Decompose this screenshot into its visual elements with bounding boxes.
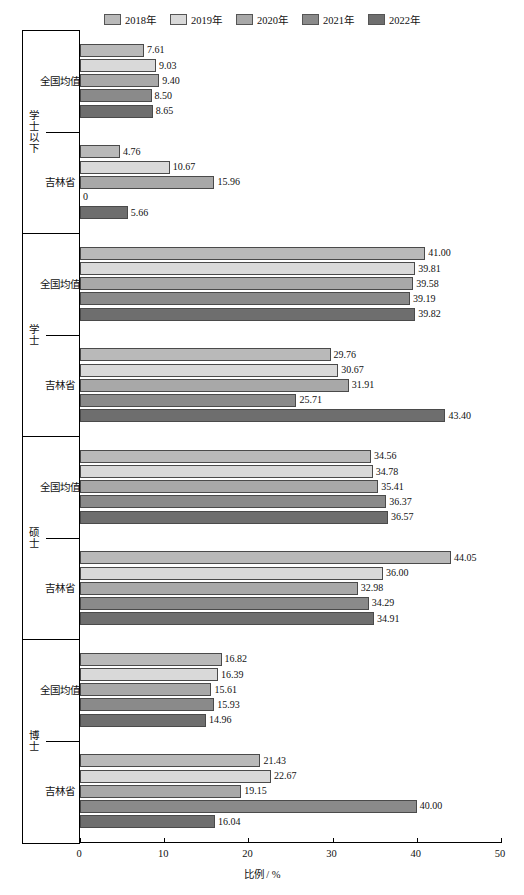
group-label: 博士 [24,713,40,769]
bar [80,495,386,508]
category-label: 全国均值 [40,682,80,697]
bar [80,511,388,524]
category-divider [46,132,79,133]
bar-value-label: 8.50 [155,89,173,102]
bar [80,409,445,422]
bar [80,145,120,158]
legend-swatch [170,14,187,25]
x-tick-label: 30 [317,848,347,859]
chart-legend: 2018年2019年2020年2021年2022年 [0,12,524,27]
bar [80,551,451,564]
group-divider [22,436,79,437]
category-label: 全国均值 [40,479,80,494]
bar-value-label: 41.00 [428,246,451,259]
bar [80,714,206,727]
bar-value-label: 9.40 [162,74,180,87]
bar-value-label: 35.41 [381,480,404,493]
bar-value-label: 9.03 [159,59,177,72]
category-divider [46,538,79,539]
bar-value-label: 16.82 [225,652,248,665]
group-label: 学士以下 [24,104,40,160]
bar [80,668,218,681]
bar [80,770,271,783]
legend-swatch [302,14,319,25]
bar [80,74,159,87]
bar [80,348,331,361]
bar [80,450,371,463]
legend-swatch [236,14,253,25]
x-tick-label: 10 [148,848,178,859]
bar-value-label: 15.93 [217,698,240,711]
bar-value-label: 34.91 [377,612,400,625]
bar-value-label: 39.58 [416,277,439,290]
category-divider [46,335,79,336]
bar [80,567,383,580]
bar-value-label: 10.67 [173,160,196,173]
bar [80,89,152,102]
bar [80,277,413,290]
x-tick-label: 40 [401,848,431,859]
legend-item: 2021年 [302,12,354,27]
bar-value-label: 19.15 [244,784,267,797]
category-label: 吉林省 [40,377,80,392]
category-label: 吉林省 [40,174,80,189]
bar-value-label: 21.43 [263,754,286,767]
bar [80,612,374,625]
bar [80,653,222,666]
legend-label: 2020年 [257,12,288,27]
bar [80,206,128,219]
bar-value-label: 32.98 [361,581,384,594]
bar-value-label: 39.19 [413,292,436,305]
bar-value-label: 44.05 [454,551,477,564]
bar-value-label: 29.76 [334,348,357,361]
x-tick [333,838,334,843]
bar [80,754,260,767]
bar-value-label: 34.78 [376,465,399,478]
bar-value-label: 4.76 [123,145,141,158]
x-tick [248,838,249,843]
legend-label: 2021年 [323,12,354,27]
bar [80,698,214,711]
x-tick [80,838,81,843]
bar [80,161,170,174]
legend-item: 2022年 [368,12,420,27]
bar [80,480,378,493]
bar [80,785,241,798]
x-tick [417,838,418,843]
bar [80,800,417,813]
bar-value-label: 7.61 [147,43,165,56]
bar-value-label: 34.56 [374,449,397,462]
bar [80,815,215,828]
bar [80,105,153,118]
legend-item: 2020年 [236,12,288,27]
bar-value-label: 0 [83,190,88,203]
bar [80,465,373,478]
bar-value-label: 36.37 [389,495,412,508]
bar-value-label: 36.00 [386,566,409,579]
group-divider [22,233,79,234]
bar [80,262,415,275]
bar-value-label: 39.81 [418,262,441,275]
plot-area: 7.619.039.408.508.654.7610.6715.9605.664… [79,30,501,843]
bar [80,44,144,57]
category-divider [46,741,79,742]
x-tick [164,838,165,843]
bar-value-label: 30.67 [341,363,364,376]
legend-swatch [368,14,385,25]
bar [80,308,415,321]
legend-label: 2022年 [389,12,420,27]
bar [80,379,349,392]
legend-label: 2019年 [191,12,222,27]
category-label: 全国均值 [40,73,80,88]
bar-value-label: 15.61 [214,683,237,696]
group-label: 学士 [24,307,40,363]
bar-value-label: 15.96 [217,175,240,188]
legend-item: 2018年 [104,12,156,27]
bar-value-label: 8.65 [156,104,174,117]
bar [80,597,369,610]
bar-value-label: 5.66 [131,206,149,219]
x-tick [501,838,502,843]
category-label: 吉林省 [40,783,80,798]
bar-value-label: 34.29 [372,596,395,609]
bar [80,364,338,377]
